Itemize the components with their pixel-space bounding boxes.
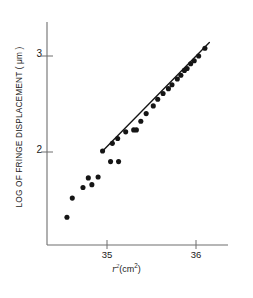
data-point [178,73,183,78]
data-point [123,129,128,134]
data-point [110,141,115,146]
data-point [80,185,85,190]
data-point [151,103,156,108]
data-point [70,196,75,201]
data-point [161,91,166,96]
data-point [185,66,190,71]
data-point [175,76,180,81]
data-point [202,46,207,51]
data-point [64,215,69,220]
data-point [192,58,197,63]
plot-area [0,0,253,298]
data-point [138,119,143,124]
data-point [144,111,149,116]
data-point [196,53,201,58]
data-point [116,159,121,164]
data-point [89,182,94,187]
data-point [86,175,91,180]
data-point [115,136,120,141]
data-point [166,86,171,91]
data-point [134,127,139,132]
figure-container: LOG OF FRINGE DISPLACEMENT ( μm ) 3 2 35… [0,0,253,298]
data-point [96,174,101,179]
data-point [108,159,113,164]
cropped-caption-text [8,286,248,295]
data-points [64,46,207,220]
data-point [155,97,160,102]
data-point [169,82,174,87]
data-point [100,148,105,153]
